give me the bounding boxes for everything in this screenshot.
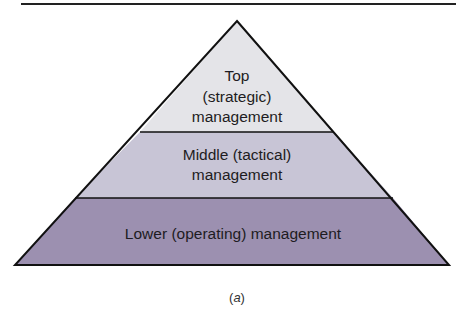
middle-level-label-line-1: Middle (tactical) — [183, 146, 292, 163]
middle-level-label-line-2: management — [192, 166, 283, 183]
top-level-label-line-2: (strategic) — [203, 88, 272, 105]
caption-letter: a — [233, 290, 240, 305]
pyramid-diagram: Top (strategic) management Middle (tacti… — [0, 0, 456, 311]
top-level-label-line-3: management — [192, 108, 283, 125]
top-level-label-line-1: Top — [225, 67, 250, 84]
pyramid-level-middle — [75, 132, 393, 198]
figure-caption: (a) — [229, 290, 245, 305]
management-pyramid-figure: Top (strategic) management Middle (tacti… — [0, 0, 456, 311]
lower-level-label: Lower (operating) management — [125, 225, 342, 242]
caption-close-paren: ) — [241, 290, 245, 305]
